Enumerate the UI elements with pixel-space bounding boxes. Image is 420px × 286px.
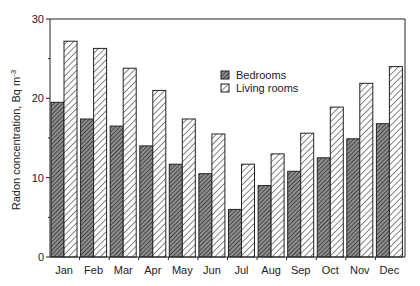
x-tick-label-mar: Mar: [114, 264, 133, 276]
bedrooms-bar-nov: [347, 139, 360, 257]
x-axis-labels: JanFebMarAprMayJunJulAugSepOctNovDec: [55, 257, 400, 276]
x-tick-label-aug: Aug: [261, 264, 281, 276]
bedrooms-swatch-icon: [221, 71, 229, 79]
living-rooms-bar-feb: [94, 48, 107, 257]
y-tick-label-20: 20: [32, 92, 44, 104]
living-rooms-bar-dec: [389, 67, 402, 257]
living-rooms-swatch-icon: [221, 84, 229, 92]
living-rooms-bar-mar: [123, 68, 136, 257]
x-tick-label-nov: Nov: [350, 264, 370, 276]
bedrooms-bar-dec: [376, 124, 389, 257]
y-tick-label-10: 10: [32, 172, 44, 184]
living-rooms-bar-jul: [242, 164, 255, 257]
x-tick-label-may: May: [172, 264, 193, 276]
y-tick-label-0: 0: [38, 251, 44, 263]
x-tick-label-feb: Feb: [84, 264, 103, 276]
x-tick-label-jul: Jul: [234, 264, 248, 276]
x-tick-label-sep: Sep: [291, 264, 311, 276]
legend: Bedrooms Living rooms: [221, 69, 299, 94]
y-axis-title: Radon concentration, Bq m-3: [9, 69, 22, 210]
living-rooms-bar-aug: [271, 154, 284, 257]
x-tick-label-apr: Apr: [144, 264, 161, 276]
bedrooms-bar-sep: [288, 171, 301, 257]
bedrooms-bar-may: [169, 164, 182, 257]
x-tick-label-jun: Jun: [203, 264, 221, 276]
y-axis-ticks: 0102030: [32, 13, 50, 263]
bedrooms-bar-jun: [199, 174, 212, 257]
legend-label-bedrooms: Bedrooms: [236, 69, 287, 81]
bedrooms-bar-feb: [81, 119, 94, 257]
x-tick-label-jan: Jan: [55, 264, 73, 276]
y-tick-label-30: 30: [32, 13, 44, 25]
living-rooms-bar-apr: [153, 90, 166, 257]
x-tick-label-oct: Oct: [322, 264, 339, 276]
bedrooms-bar-jan: [51, 102, 64, 257]
bedrooms-bar-aug: [258, 186, 271, 257]
bedrooms-bar-jul: [229, 209, 242, 257]
living-rooms-bar-jan: [64, 41, 77, 257]
bedrooms-bar-apr: [140, 146, 153, 257]
bedrooms-bar-mar: [110, 126, 123, 257]
bedrooms-bar-oct: [317, 158, 330, 257]
living-rooms-bar-oct: [330, 107, 343, 257]
chart-container: 0102030 JanFebMarAprMayJunJulAugSepOctNo…: [0, 0, 420, 286]
radon-bar-chart: 0102030 JanFebMarAprMayJunJulAugSepOctNo…: [0, 0, 420, 286]
living-rooms-bar-may: [182, 119, 195, 257]
legend-label-living-rooms: Living rooms: [236, 82, 299, 94]
living-rooms-bar-nov: [360, 83, 373, 257]
legend-item-living-rooms: Living rooms: [221, 82, 299, 94]
living-rooms-bar-jun: [212, 134, 225, 257]
x-tick-label-dec: Dec: [380, 264, 400, 276]
legend-item-bedrooms: Bedrooms: [221, 69, 287, 81]
living-rooms-bar-sep: [301, 133, 314, 257]
